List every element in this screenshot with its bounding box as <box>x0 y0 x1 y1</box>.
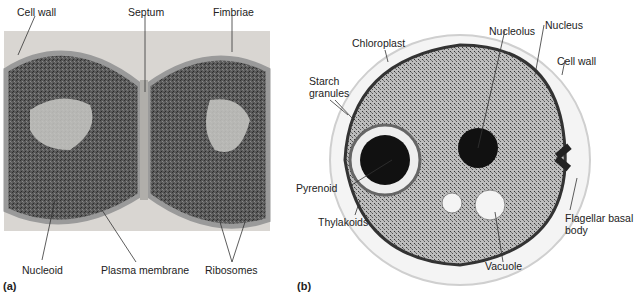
label-nucleolus: Nucleolus <box>489 25 535 37</box>
label-ribosomes: Ribosomes <box>205 264 258 276</box>
label-cell-wall-a: Cell wall <box>17 6 56 18</box>
label-septum: Septum <box>128 6 164 18</box>
label-chloroplast: Chloroplast <box>352 37 405 49</box>
panel-b-tag: (b) <box>297 280 311 292</box>
panel-a-tag: (a) <box>3 280 16 292</box>
label-nucleus: Nucleus <box>545 19 583 31</box>
label-cell-wall-b: Cell wall <box>557 55 596 67</box>
label-starch-granules-line2: granules <box>309 87 349 99</box>
label-vacuole: Vacuole <box>485 260 522 272</box>
label-thylakoids: Thylakoids <box>318 216 368 228</box>
micrograph-figure <box>0 0 640 300</box>
right-cell <box>148 58 268 226</box>
label-flagellar-basal-body-line1: Flagellar basal <box>565 212 633 224</box>
label-flagellar-basal-body-line2: body <box>565 224 588 236</box>
label-starch-granules-line1: Starch <box>309 75 339 87</box>
label-pyrenoid: Pyrenoid <box>296 182 337 194</box>
label-plasma-membrane: Plasma membrane <box>101 264 189 276</box>
label-fimbriae: Fimbriae <box>213 6 254 18</box>
label-nucleoid: Nucleoid <box>22 264 63 276</box>
